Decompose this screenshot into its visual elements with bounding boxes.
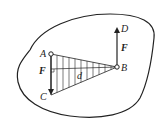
point-a-marker: [49, 52, 53, 56]
distance-line: [51, 67, 117, 69]
label-a: A: [39, 48, 47, 59]
label-c: C: [40, 91, 47, 102]
force-couple-diagram: A B C D F F d: [0, 0, 167, 127]
diagram-canvas: A B C D F F d: [0, 0, 167, 127]
label-force-left: F: [38, 65, 46, 76]
hatched-triangle: [51, 54, 117, 95]
rigid-body-outline: [17, 14, 154, 117]
label-distance: d: [77, 70, 83, 81]
label-d: D: [120, 23, 129, 34]
point-b-marker: [115, 65, 119, 69]
label-b: B: [121, 62, 127, 73]
label-force-right: F: [120, 42, 128, 53]
